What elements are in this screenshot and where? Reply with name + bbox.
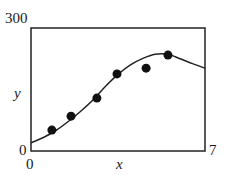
plot-area — [0, 0, 227, 181]
data-point — [163, 51, 172, 60]
x-tick-left: 0 — [26, 157, 34, 172]
data-point — [47, 126, 56, 135]
data-points — [47, 51, 172, 135]
y-tick-top: 300 — [5, 11, 28, 26]
plot-frame — [31, 28, 205, 151]
data-point — [92, 94, 101, 103]
data-point — [142, 64, 151, 73]
x-axis-label: x — [116, 157, 123, 172]
x-tick-right: 7 — [209, 143, 217, 158]
fitted-curve — [31, 54, 205, 143]
y-axis-label: y — [14, 86, 21, 101]
data-point — [67, 112, 76, 121]
data-point — [113, 69, 122, 78]
